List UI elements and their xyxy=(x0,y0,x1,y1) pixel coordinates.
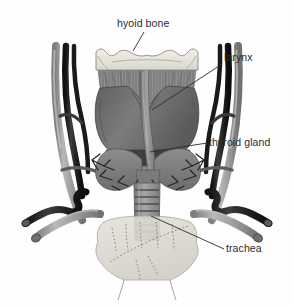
anatomy-illustration: hyoid bone larynx thyroid gland trachea xyxy=(0,0,294,306)
label-larynx: larynx xyxy=(224,51,253,63)
subclavian-artery-left-icon xyxy=(36,213,100,238)
sternum-structure xyxy=(96,216,198,300)
subclavian-vessels-right xyxy=(194,192,273,244)
sternum-shape-icon xyxy=(96,216,198,280)
label-thyroid-gland: thyroid gland xyxy=(209,136,270,148)
label-hyoid-bone: hyoid bone xyxy=(117,17,169,29)
subclavian-vessels-left xyxy=(21,192,100,244)
hyoid-bone-structure xyxy=(96,49,198,70)
leader-hyoid-bone xyxy=(133,32,144,51)
label-trachea: trachea xyxy=(226,242,262,254)
subclavian-artery-right-icon xyxy=(194,213,258,238)
sternum-body-edge-left-icon xyxy=(118,280,124,300)
anatomy-figure: hyoid bone larynx thyroid gland trachea xyxy=(0,0,294,306)
thyroid-lobe-right-icon xyxy=(154,149,201,191)
sternum-body-edge-right-icon xyxy=(170,280,176,300)
